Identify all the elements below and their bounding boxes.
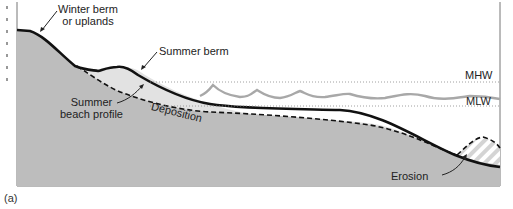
- summer-berm-label: Summer berm: [159, 45, 229, 57]
- winter-berm-label: Winter berm or uplands: [58, 3, 118, 27]
- mhw-label: MHW: [465, 69, 493, 81]
- panel-label: (a): [4, 192, 17, 204]
- summer-profile-label-line2: beach profile: [60, 108, 123, 120]
- winter-berm-arrow: [42, 11, 57, 30]
- summer-profile-label: Summer beach profile: [60, 96, 123, 120]
- water-surface-line: [200, 85, 500, 99]
- summer-profile-label-line1: Summer: [60, 96, 123, 108]
- winter-berm-label-line1: Winter berm: [58, 3, 118, 15]
- erosion-label: Erosion: [391, 170, 428, 182]
- winter-berm-label-line2: or uplands: [58, 15, 118, 27]
- mlw-label: MLW: [466, 95, 491, 107]
- summer-berm-arrow: [144, 52, 157, 67]
